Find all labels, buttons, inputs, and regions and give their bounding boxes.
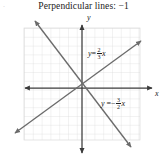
equation-label-line2: y =−32x <box>101 97 125 111</box>
eq2-sign: − <box>111 99 116 108</box>
perpendicular-lines-figure: · Perpendicular lines: −1 y=23x <box>0 0 167 166</box>
equation-label-line1: y=23x <box>88 47 106 61</box>
eq1-equals: = <box>92 49 97 58</box>
x-axis-label: x <box>155 89 159 98</box>
eq2-fraction: 32 <box>116 97 121 111</box>
eq2-denominator: 2 <box>116 103 121 110</box>
eq2-y: y <box>101 99 105 108</box>
eq2-variable: x <box>122 99 126 108</box>
eq1-fraction: 23 <box>97 47 102 61</box>
coordinate-plane-plot <box>0 0 167 166</box>
y-axis-label: y <box>87 13 91 22</box>
eq1-variable: x <box>102 49 106 58</box>
eq1-denominator: 3 <box>97 53 102 60</box>
